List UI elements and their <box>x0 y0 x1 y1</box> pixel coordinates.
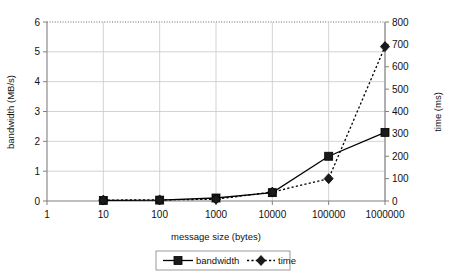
y-tick-label-left: 1 <box>34 166 40 177</box>
y-tick-label-left: 0 <box>34 196 40 207</box>
x-tick-label: 100000 <box>312 209 346 220</box>
y-axis-label-right: time (ms) <box>432 92 443 132</box>
y-axis-label-left: bandwidth (MB/s) <box>5 75 16 149</box>
y-tick-label-right: 600 <box>392 61 409 72</box>
y-tick-label-right: 100 <box>392 173 409 184</box>
y-tick-label-left: 5 <box>34 46 40 57</box>
data-point-square[interactable] <box>325 152 333 160</box>
x-tick-label: 10 <box>98 209 110 220</box>
legend-item-bandwidth[interactable]: bandwidth <box>163 255 239 266</box>
chart-legend: bandwidth time <box>156 251 296 270</box>
x-tick-label: 1 <box>44 209 50 220</box>
chart-figure: 0123456010020030040050060070080011010010… <box>0 0 449 280</box>
data-point-square[interactable] <box>381 128 389 136</box>
y-tick-label-left: 3 <box>34 106 40 117</box>
square-marker-icon <box>174 257 182 265</box>
legend-label-bandwidth: bandwidth <box>196 255 239 266</box>
y-tick-label-right: 700 <box>392 39 409 50</box>
y-tick-label-right: 800 <box>392 17 409 28</box>
x-tick-label: 1000000 <box>366 209 405 220</box>
x-tick-label: 10000 <box>258 209 286 220</box>
y-tick-label-left: 4 <box>34 76 40 87</box>
x-tick-label: 1000 <box>205 209 228 220</box>
y-tick-label-right: 200 <box>392 151 409 162</box>
x-tick-label: 100 <box>151 209 168 220</box>
y-tick-label-right: 400 <box>392 106 409 117</box>
y-tick-label-left: 6 <box>34 17 40 28</box>
y-tick-label-right: 500 <box>392 84 409 95</box>
y-tick-label-left: 2 <box>34 136 40 147</box>
x-axis-label: message size (bytes) <box>171 231 261 242</box>
y-tick-label-right: 300 <box>392 128 409 139</box>
legend-label-time: time <box>278 255 296 266</box>
y-tick-label-right: 0 <box>392 196 398 207</box>
